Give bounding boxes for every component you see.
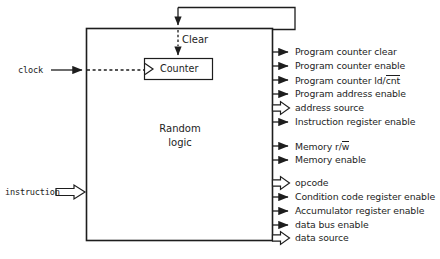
- output-arrow-open: [273, 232, 290, 245]
- output-signal-label: Program address enable: [295, 89, 406, 98]
- output-signal-label: Memory r/w: [295, 141, 349, 151]
- output-signal-label: Program counter ld/cnt: [295, 75, 400, 85]
- output-signal-label: Program counter enable: [295, 61, 405, 70]
- output-signal-label: data source: [295, 233, 349, 242]
- random-logic-label-line2: logic: [152, 138, 208, 148]
- output-signal-label: Instruction register enable: [295, 117, 415, 126]
- random-logic-label-line1: Random: [152, 124, 208, 134]
- feedback-loop-path: [178, 8, 295, 30]
- output-signal-label-text: Memory r/: [295, 141, 342, 152]
- counter-label: Counter: [160, 64, 198, 74]
- output-signal-label: Program counter clear: [295, 47, 397, 56]
- output-arrow-group: [273, 52, 290, 244]
- output-signal-label: Condition code register enable: [295, 192, 435, 201]
- output-signal-label: address source: [295, 103, 364, 112]
- output-signal-label-overbar: w: [342, 141, 350, 151]
- output-arrow-open: [273, 177, 290, 190]
- instruction-input-label: instruction: [5, 188, 60, 197]
- output-signal-label: data bus enable: [295, 220, 369, 229]
- random-logic-block-diagram: Clear Counter Random logic clock instruc…: [0, 0, 440, 259]
- instruction-input-open-arrow-icon: [56, 185, 85, 199]
- output-signal-label: Memory enable: [295, 155, 366, 164]
- diagram-canvas: [0, 0, 440, 259]
- output-signal-label: Accumulator register enable: [295, 206, 424, 215]
- clear-label: Clear: [182, 35, 208, 45]
- clock-input-label: clock: [18, 66, 43, 75]
- output-signal-label: opcode: [295, 178, 328, 187]
- output-signal-label-text: Program counter ld/: [295, 75, 386, 86]
- output-signal-label-overbar: cnt: [386, 75, 400, 85]
- output-arrow-open: [273, 102, 290, 115]
